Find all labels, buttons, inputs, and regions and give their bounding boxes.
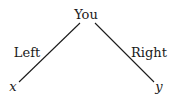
root-node-label: You xyxy=(73,7,98,22)
right-edge-label: Right xyxy=(131,45,168,60)
tree-diagram: You Left Right x y xyxy=(0,0,172,100)
leaf-x-label: x xyxy=(9,79,17,94)
left-edge-label: Left xyxy=(14,45,41,60)
leaf-y-label: y xyxy=(154,79,163,94)
